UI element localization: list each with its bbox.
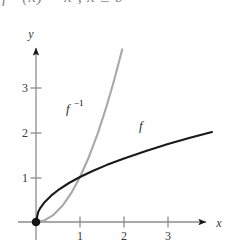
curve-label-f-inverse: f −1: [66, 98, 84, 116]
x-tick-label-3: 3: [165, 229, 171, 243]
curve-f-inverse: [36, 49, 122, 222]
y-axis-tick-labels: 1 2 3: [22, 81, 28, 185]
origin-point-marker: [32, 218, 41, 227]
curve-label-f-text: f: [139, 118, 145, 133]
curve-label-f-inverse-text: f: [66, 101, 72, 116]
axes-group: [18, 48, 206, 240]
curves-group: [36, 49, 212, 222]
y-tick-label-2: 2: [22, 126, 28, 140]
x-axis-label: x: [215, 216, 222, 230]
figure-container: f⁻¹(x) = x², x ≥ 0 1 2: [0, 0, 234, 244]
function-graph: 1 2 3 1 2 3 y x f −1 f: [0, 0, 234, 244]
curve-f: [36, 132, 212, 222]
curve-label-f-inverse-exponent: −1: [74, 98, 84, 108]
x-axis-tick-labels: 1 2 3: [77, 229, 171, 243]
y-tick-label-1: 1: [22, 171, 28, 185]
y-tick-label-3: 3: [22, 81, 28, 95]
x-tick-label-2: 2: [121, 229, 127, 243]
x-tick-label-1: 1: [77, 229, 83, 243]
y-axis-label: y: [27, 27, 34, 41]
